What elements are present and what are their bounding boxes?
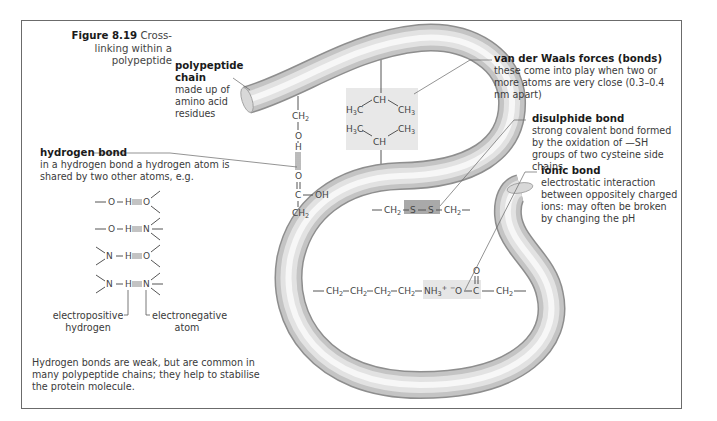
svg-text:H: H — [295, 142, 302, 152]
label-title: polypeptide chain — [175, 60, 270, 84]
svg-text:H: H — [125, 197, 132, 207]
svg-text:C: C — [473, 286, 479, 296]
svg-text:N: N — [106, 251, 113, 261]
svg-text:O: O — [143, 197, 150, 207]
svg-text:S: S — [410, 205, 416, 215]
svg-text:O: O — [295, 131, 302, 141]
svg-text:CH2: CH2 — [384, 205, 401, 217]
svg-text:CH: CH — [373, 137, 386, 147]
svg-text:OH: OH — [315, 190, 329, 200]
figure-caption: Figure 8.19 Cross-linking within a polyp… — [60, 30, 172, 68]
label-text: electrostatic interaction between opposi… — [541, 177, 677, 224]
hbond-examples: O H O O H N N H O N H N — [95, 191, 163, 315]
svg-text:CH2: CH2 — [350, 286, 367, 298]
label-electropositive: electropositive hydrogen — [52, 310, 124, 334]
svg-text:CH2: CH2 — [496, 286, 513, 298]
label-text: these come into play when two or more at… — [494, 65, 664, 100]
svg-text:H: H — [125, 224, 132, 234]
label-electronegative: electronegative atom — [152, 310, 222, 334]
label-title: van der Waals forces (bonds) — [494, 53, 674, 65]
svg-text:C: C — [295, 190, 301, 200]
svg-text:O: O — [108, 224, 115, 234]
svg-text:CH2: CH2 — [326, 286, 343, 298]
footnote: Hydrogen bonds are weak, but are common … — [32, 357, 272, 393]
svg-text:O: O — [455, 286, 462, 296]
svg-text:H: H — [125, 251, 132, 261]
svg-text:S: S — [428, 205, 434, 215]
svg-text:CH2: CH2 — [398, 286, 415, 298]
ionic-group: CH2 CH2 CH2 CH2 NH3+ − O C O CH2 — [313, 266, 526, 298]
svg-text:O: O — [108, 197, 115, 207]
label-text: in a hydrogen bond a hydrogen atom is sh… — [40, 159, 230, 182]
label-ionic-bond: ionic bond electrostatic interaction bet… — [541, 165, 681, 225]
label-title: ionic bond — [541, 165, 681, 177]
label-title: hydrogen bond — [40, 147, 230, 159]
svg-text:O: O — [295, 171, 302, 181]
label-disulphide-bond: disulphide bond strong covalent bond for… — [532, 113, 677, 173]
svg-text:CH: CH — [373, 95, 386, 105]
label-text: made up of amino acid residues — [175, 84, 235, 120]
svg-text:N: N — [143, 224, 150, 234]
svg-text:N: N — [106, 279, 113, 289]
label-title: disulphide bond — [532, 113, 677, 125]
svg-text:H: H — [125, 279, 132, 289]
label-hydrogen-bond: hydrogen bond in a hydrogen bond a hydro… — [40, 147, 230, 183]
svg-text:CH2: CH2 — [292, 111, 309, 123]
label-van-der-waals: van der Waals forces (bonds) these come … — [494, 53, 674, 101]
figure-number: Figure 8.19 — [72, 30, 138, 41]
svg-text:O: O — [143, 251, 150, 261]
svg-text:N: N — [143, 279, 150, 289]
label-polypeptide-chain: polypeptide chain made up of amino acid … — [175, 60, 270, 120]
svg-text:CH2: CH2 — [444, 205, 461, 217]
svg-text:CH2: CH2 — [374, 286, 391, 298]
